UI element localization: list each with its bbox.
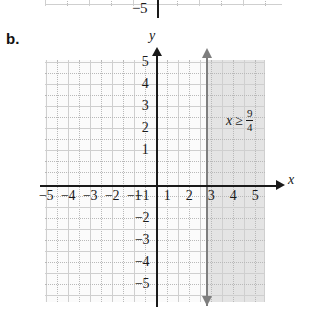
gridline-v	[200, 60, 201, 302]
remnant-gridline	[45, 0, 46, 6]
remnant-gridline	[67, 0, 68, 6]
gridline-v	[46, 60, 47, 302]
fraction-denominator: 4	[246, 120, 254, 133]
y-tick-label: 2	[135, 120, 155, 136]
remnant-gridline	[111, 0, 112, 6]
y-axis-label: y	[149, 28, 155, 44]
gridline-v	[167, 60, 168, 302]
gridline-v	[90, 60, 91, 302]
gridline-h	[45, 251, 265, 252]
gridline-h	[45, 139, 265, 140]
gridline-h	[45, 295, 265, 296]
remnant-gridline	[199, 0, 200, 6]
gridline-h	[45, 84, 265, 85]
gridline-h	[45, 229, 265, 230]
x-tick-label: −3	[80, 188, 100, 204]
graph-figure: −5 b.	[0, 0, 311, 309]
gridline-h	[45, 150, 265, 151]
gridline-h	[45, 240, 265, 241]
gridline-h	[45, 73, 265, 74]
boundary-line-arrow-up-icon	[202, 48, 212, 58]
remnant-gridline	[243, 0, 244, 6]
gridline-h	[45, 161, 265, 162]
gridline-h	[45, 172, 265, 173]
gridline-v	[57, 60, 58, 302]
y-tick-label: 5	[135, 54, 155, 70]
y-tick-label: −3	[132, 232, 152, 248]
gridline-v	[264, 60, 265, 302]
gridline-v	[255, 60, 256, 302]
inequality-annotation: x ≥ 9 4	[226, 108, 253, 133]
gridline-v	[222, 60, 223, 302]
x-tick-label: 1	[157, 188, 177, 204]
gridline-v	[101, 60, 102, 302]
gridline-v	[123, 60, 124, 302]
gridline-v	[79, 60, 80, 302]
remnant-gridline	[265, 0, 266, 6]
gridline-h	[45, 62, 265, 63]
previous-part-grid-remnant	[45, 0, 282, 6]
fraction-numerator: 9	[246, 108, 254, 120]
shaded-solution-region	[207, 60, 265, 302]
x-axis	[40, 185, 276, 187]
gridline-h	[45, 273, 265, 274]
gridline-h	[45, 218, 265, 219]
gridline-h	[45, 207, 265, 208]
inequality-relation: ≥	[235, 113, 243, 129]
gridline-v	[211, 60, 212, 302]
x-tick-label: 2	[179, 188, 199, 204]
gridline-h	[45, 262, 265, 263]
gridline-h	[45, 95, 265, 96]
x-axis-arrow-icon	[276, 180, 285, 190]
boundary-line-arrow-down-icon	[202, 296, 212, 306]
part-label: b.	[6, 30, 19, 47]
y-tick-label: 1	[135, 142, 155, 158]
boundary-line	[206, 56, 208, 306]
x-axis-label: x	[288, 172, 294, 188]
coordinate-plane: x y −5 −4 −3 −2 −1 1 2 3 4 5 5 4 3 2 1 −…	[45, 60, 287, 302]
inequality-variable: x	[226, 113, 232, 129]
inequality-fraction: 9 4	[246, 108, 254, 133]
gridline-v	[112, 60, 113, 302]
y-tick-label: 4	[135, 76, 155, 92]
remnant-y-axis	[157, 0, 159, 18]
remnant-gridline	[45, 4, 282, 5]
gridline-v	[178, 60, 179, 302]
x-tick-label: −2	[102, 188, 122, 204]
y-tick-label: −1	[132, 188, 152, 204]
x-tick-label: 5	[245, 188, 265, 204]
gridline-h	[45, 284, 265, 285]
x-tick-label: 3	[201, 188, 221, 204]
remnant-gridline	[89, 0, 90, 6]
x-tick-label: −4	[58, 188, 78, 204]
y-axis	[156, 54, 158, 307]
remnant-gridline	[177, 0, 178, 6]
gridline-v	[68, 60, 69, 302]
x-tick-label: 4	[223, 188, 243, 204]
y-tick-label: −2	[132, 210, 152, 226]
y-tick-label: 3	[135, 98, 155, 114]
gridline-v	[189, 60, 190, 302]
gridline-v	[233, 60, 234, 302]
x-tick-label: −5	[36, 188, 56, 204]
gridline-h	[45, 106, 265, 107]
y-tick-label: −5	[132, 276, 152, 292]
remnant-gridline	[221, 0, 222, 6]
gridline-v	[244, 60, 245, 302]
remnant-tick-label: −5	[132, 0, 147, 17]
y-tick-label: −4	[132, 254, 152, 270]
